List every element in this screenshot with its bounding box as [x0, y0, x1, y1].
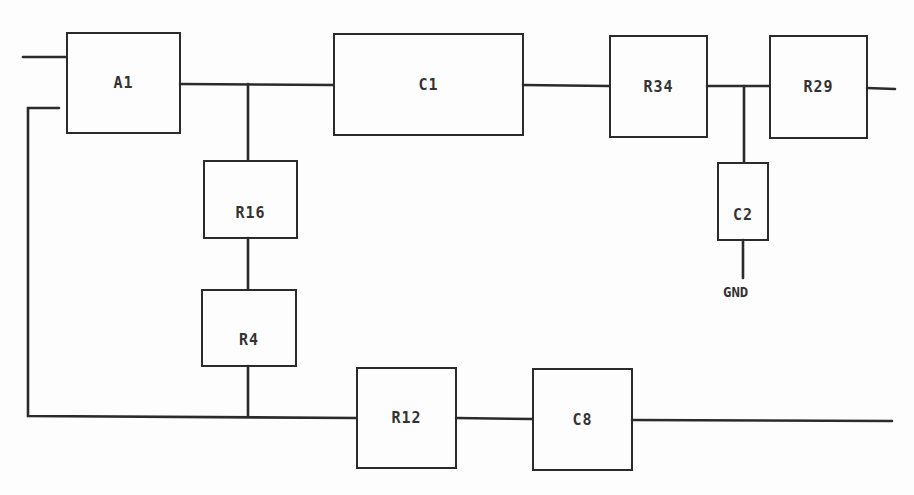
wire-feedback [28, 108, 356, 418]
component-label: C2 [733, 206, 753, 224]
component-label: R34 [643, 78, 673, 96]
component-label: C8 [572, 411, 592, 429]
component-label: R12 [391, 409, 421, 427]
component-label: R4 [239, 331, 259, 349]
component-label: R29 [803, 78, 833, 96]
component-c8: C8 [532, 368, 633, 471]
component-r29: R29 [769, 35, 868, 139]
wire-c8-output [632, 420, 892, 421]
wire-a1-c1 [180, 84, 333, 85]
wire-r29-output [867, 88, 895, 89]
schematic-diagram: A1 C1 R34 R29 R16 C2 R4 R12 C8 GND [0, 0, 914, 495]
component-r4: R4 [201, 289, 297, 367]
component-r34: R34 [609, 35, 708, 138]
component-label: R16 [235, 204, 265, 222]
component-r16: R16 [203, 160, 298, 239]
component-r12: R12 [356, 367, 457, 469]
component-c2: C2 [717, 162, 769, 241]
wire-c1-r34 [523, 85, 609, 86]
component-label: C1 [418, 76, 438, 94]
ground-label: GND [723, 284, 748, 300]
component-c1: C1 [333, 33, 524, 136]
wire-r12-c8 [456, 418, 532, 419]
component-a1: A1 [66, 32, 181, 134]
component-label: A1 [113, 74, 133, 92]
